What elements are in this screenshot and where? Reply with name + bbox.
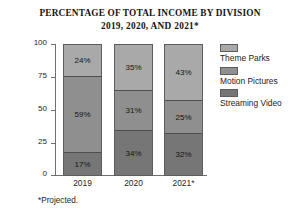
y-tick-100: 100 xyxy=(51,44,56,45)
y-tick-label-75: 75 xyxy=(38,71,47,80)
legend-label: Theme Parks xyxy=(220,53,298,63)
x-tick-label-2020: 2020 xyxy=(114,178,153,188)
bar-segment-label: 24% xyxy=(74,56,90,65)
bar-segment-label: 31% xyxy=(125,106,141,115)
bar-segment-label: 25% xyxy=(175,113,191,122)
bar-segment-label: 43% xyxy=(175,68,191,77)
bar-segment-theme-parks[interactable]: 24% xyxy=(64,45,101,76)
bar-2020[interactable]: 35% 31% 34% xyxy=(114,44,153,176)
chart-container: PERCENTAGE OF TOTAL INCOME BY DIVISION 2… xyxy=(0,0,300,213)
bar-segment-theme-parks[interactable]: 35% xyxy=(115,45,152,90)
bar-segment-motion-pictures[interactable]: 31% xyxy=(115,90,152,131)
chart-subtitle: 2019, 2020, AND 2021* xyxy=(0,20,300,33)
legend-label: Streaming Video xyxy=(220,98,298,108)
bar-segment-label: 59% xyxy=(74,110,90,119)
legend-item-streaming-video[interactable]: Streaming Video xyxy=(220,89,298,108)
legend-swatch-icon xyxy=(220,67,238,75)
x-tick-label-2019: 2019 xyxy=(63,178,102,188)
bar-segment-label: 32% xyxy=(175,150,191,159)
bar-segment-theme-parks[interactable]: 43% xyxy=(165,45,202,100)
bar-segment-streaming-video[interactable]: 32% xyxy=(165,133,202,175)
y-tick-50: 50 xyxy=(51,110,56,111)
chart-title-line-1: PERCENTAGE OF TOTAL INCOME BY DIVISION xyxy=(0,7,300,20)
bar-segment-label: 35% xyxy=(125,63,141,72)
chart-legend: Theme Parks Motion Pictures Streaming Vi… xyxy=(220,44,298,112)
bar-2019[interactable]: 24% 59% 17% xyxy=(63,44,102,176)
chart-title: PERCENTAGE OF TOTAL INCOME BY DIVISION 2… xyxy=(0,7,300,32)
legend-swatch-icon xyxy=(220,44,238,52)
y-tick-label-50: 50 xyxy=(38,104,47,113)
bar-segment-motion-pictures[interactable]: 59% xyxy=(64,76,101,153)
bar-segment-streaming-video[interactable]: 17% xyxy=(64,152,101,175)
y-tick-25: 25 xyxy=(51,143,56,144)
chart-footnote: *Projected. xyxy=(38,196,78,205)
legend-item-motion-pictures[interactable]: Motion Pictures xyxy=(220,67,298,86)
legend-label: Motion Pictures xyxy=(220,76,298,86)
y-tick-75: 75 xyxy=(51,77,56,78)
bar-segment-streaming-video[interactable]: 34% xyxy=(115,130,152,175)
y-tick-0: 0 xyxy=(51,175,56,176)
plot-area: 100 75 50 25 0 24% 59% 17% 2019 xyxy=(55,44,210,176)
legend-swatch-icon xyxy=(220,89,238,97)
x-tick-label-2021: 2021* xyxy=(164,178,203,188)
bar-2021[interactable]: 43% 25% 32% xyxy=(164,44,203,176)
y-tick-label-25: 25 xyxy=(38,137,47,146)
y-tick-label-100: 100 xyxy=(34,38,47,47)
legend-item-theme-parks[interactable]: Theme Parks xyxy=(220,44,298,63)
bar-segment-motion-pictures[interactable]: 25% xyxy=(165,100,202,133)
y-tick-label-0: 0 xyxy=(43,169,47,178)
bar-segment-label: 34% xyxy=(125,149,141,158)
bar-segment-label: 17% xyxy=(74,160,90,169)
